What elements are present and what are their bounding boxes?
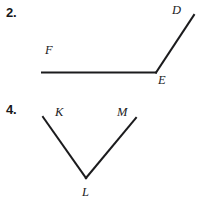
point-label-l: L [82, 186, 89, 199]
segment-KL [43, 117, 86, 178]
point-label-k: K [55, 106, 63, 119]
segment-LM [86, 118, 136, 178]
problem-4-number: 4. [6, 103, 16, 116]
worksheet-page: 2. D F E 4. K M L [0, 0, 202, 210]
angle-figure-KLM [0, 0, 202, 210]
problem-4: 4. K M L [0, 0, 202, 210]
point-label-m: M [117, 106, 127, 119]
